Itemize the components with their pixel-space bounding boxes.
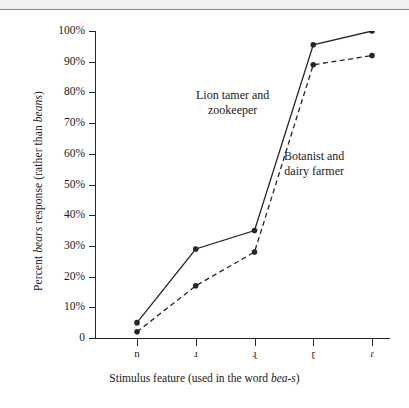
y-tick-mark [89, 62, 96, 63]
data-point-marker [310, 62, 316, 68]
x-tick-mark [196, 339, 197, 346]
y-tick-mark [89, 185, 96, 186]
y-tick-label: 100% [43, 25, 85, 37]
data-point-marker [369, 31, 375, 34]
data-point-marker [193, 283, 199, 289]
line-chart-figure: Percent bears response (rather than bean… [0, 0, 409, 408]
y-tick-mark [89, 277, 96, 278]
y-tick-mark [89, 31, 96, 32]
data-point-marker [369, 53, 375, 59]
y-tick-label: 30% [43, 240, 85, 252]
y-tick-label: 80% [43, 86, 85, 98]
x-tick-mark [313, 339, 314, 346]
y-tick-label: 40% [43, 209, 85, 221]
data-point-marker [252, 228, 258, 234]
x-tick-label: ɹ [176, 347, 216, 359]
x-tick-mark [137, 339, 138, 346]
data-point-marker [193, 246, 199, 252]
y-tick-label: 50% [43, 179, 85, 191]
x-axis-label-post: ) [296, 372, 300, 384]
x-axis-line [95, 338, 390, 339]
data-point-marker [134, 329, 140, 335]
annotation-line-1: Lion tamer and [196, 88, 269, 103]
y-tick-mark [89, 123, 96, 124]
y-tick-label: 90% [43, 56, 85, 68]
y-tick-label: 60% [43, 148, 85, 160]
series-lines [95, 31, 390, 339]
x-axis-label-pre: Stimulus feature (used in the word [109, 372, 271, 384]
y-tick-mark [89, 246, 96, 247]
x-tick-label: ɻ [235, 347, 275, 359]
data-point-marker [134, 320, 140, 326]
x-tick-mark [372, 339, 373, 346]
y-tick-mark [89, 92, 96, 93]
x-tick-label: n [117, 347, 157, 359]
y-tick-mark [89, 338, 96, 339]
y-tick-mark [89, 307, 96, 308]
x-tick-mark [255, 339, 256, 346]
y-tick-label: 20% [43, 271, 85, 283]
annotation-line-1: Botanist and [284, 149, 344, 164]
x-axis-label: Stimulus feature (used in the word bea-s… [0, 372, 409, 384]
x-tick-label: ɾ [352, 347, 392, 359]
annotation-line-2: zookeeper [196, 103, 269, 118]
y-tick-mark [89, 154, 96, 155]
data-point-marker [310, 42, 316, 48]
plot-area: nɹɻɽɾ [95, 31, 390, 339]
y-tick-label: 70% [43, 117, 85, 129]
x-tick-label: ɽ [293, 347, 333, 359]
annotation-botanist-dairy-farmer: Botanist and dairy farmer [284, 149, 344, 179]
y-tick-label: 10% [43, 301, 85, 313]
annotation-line-2: dairy farmer [284, 164, 344, 179]
y-tick-mark [89, 215, 96, 216]
x-axis-label-italic-beas: bea-s [271, 372, 296, 384]
annotation-lion-tamer-zookeeper: Lion tamer and zookeeper [196, 88, 269, 118]
data-point-marker [252, 249, 258, 255]
y-tick-label: 0 [43, 332, 85, 344]
